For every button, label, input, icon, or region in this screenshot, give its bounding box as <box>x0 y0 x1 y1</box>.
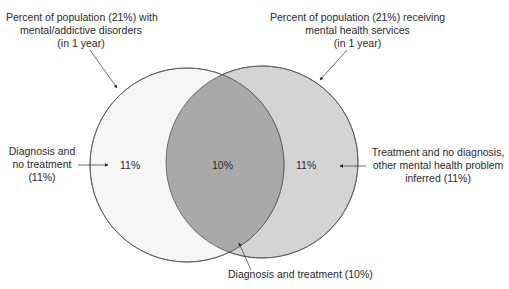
disorders-arrow <box>90 50 117 88</box>
services-set-label: Percent of population (21%) receiving me… <box>270 11 445 50</box>
disorders-set-label: Percent of population (21%) with mental/… <box>6 11 156 50</box>
diagnosis-and-treatment-callout: Diagnosis and treatment (10%) <box>228 268 368 281</box>
diagnosis-and-treatment-value: 10% <box>212 159 233 172</box>
treatment-no-diagnosis-value: 11% <box>296 159 316 172</box>
services-arrow <box>320 50 347 80</box>
treatment-no-diagnosis-callout: Treatment and no diagnosis, other mental… <box>369 146 507 185</box>
diagnosis-no-treatment-callout: Diagnosis and no treatment (11%) <box>6 145 78 184</box>
diagnosis-no-treatment-value: 11% <box>120 159 140 172</box>
